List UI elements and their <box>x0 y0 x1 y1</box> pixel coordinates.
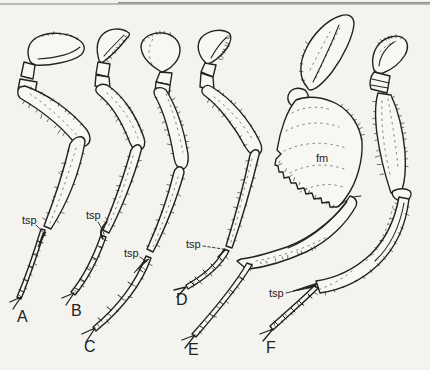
hair-tick <box>245 205 247 206</box>
leg-a-trochanter <box>21 62 35 79</box>
hair-tick <box>61 212 64 213</box>
hair-tick <box>164 32 165 34</box>
hair-tick <box>299 71 303 72</box>
leg-c-coxa <box>141 33 180 72</box>
hair-tick <box>170 33 171 35</box>
hair-tick <box>302 56 304 57</box>
leg-e-tibia-blade <box>237 196 357 269</box>
hair-tick <box>351 114 353 115</box>
tsp-label-a: tsp <box>22 214 37 226</box>
hair-tick <box>401 127 404 128</box>
hair-tick <box>119 212 122 213</box>
hair-tick <box>306 42 308 43</box>
panel-label-b: B <box>71 302 82 319</box>
leg-b-tibia <box>103 145 141 233</box>
panel-label-d: D <box>176 291 188 308</box>
hair-tick <box>29 105 30 108</box>
hair-tick <box>106 104 108 105</box>
leg-d-tibia <box>226 150 259 248</box>
hair-tick <box>208 99 209 103</box>
hair-tick <box>393 209 396 211</box>
hair-tick <box>55 126 56 128</box>
hair-tick <box>359 128 362 130</box>
hair-tick <box>162 121 165 123</box>
panel-label-e: E <box>188 341 199 358</box>
panel-label-f: F <box>266 339 276 356</box>
hair-tick <box>226 257 228 260</box>
hair-tick <box>172 98 175 100</box>
hair-tick <box>57 220 59 222</box>
hair-tick <box>301 80 304 81</box>
hair-tick <box>58 130 61 134</box>
hair-tick <box>157 245 160 246</box>
leg-c-tarsus <box>93 256 151 331</box>
tsp-label-f: tsp <box>269 287 284 299</box>
hair-tick <box>48 34 49 36</box>
hair-tick <box>81 281 84 282</box>
panel-label-c: C <box>84 338 96 355</box>
hair-tick <box>375 156 379 157</box>
hair-tick <box>131 181 133 182</box>
hair-tick <box>41 114 42 118</box>
panel-label-a: A <box>17 308 28 325</box>
leg-a: tsp A <box>10 32 90 325</box>
hair-tick <box>395 203 397 204</box>
hair-tick <box>116 118 118 122</box>
hair-tick <box>36 110 37 112</box>
hair-tick <box>357 123 360 125</box>
hair-tick <box>171 212 174 213</box>
tsp-leader-d <box>203 246 223 249</box>
leg-b-tarsus <box>71 235 106 295</box>
hair-tick <box>178 112 180 113</box>
hair-tick <box>223 49 226 50</box>
hair-tick <box>31 87 32 89</box>
hair-tick <box>221 55 224 58</box>
leg-d-coxa <box>198 30 231 64</box>
hair-tick <box>300 64 302 65</box>
leg-f-femur <box>376 93 406 193</box>
leg-b-femur <box>96 84 145 150</box>
hair-tick <box>346 110 348 111</box>
leg-a-coxa <box>28 33 84 65</box>
figure-panel: tsp A tsp B <box>0 0 430 370</box>
hair-tick <box>163 232 166 234</box>
hair-tick <box>63 133 64 135</box>
leg-c-femur <box>154 88 188 170</box>
leg-f-tibia <box>316 197 409 293</box>
leg-f-coxa <box>373 36 408 73</box>
leg-c-tibia <box>147 167 184 252</box>
hair-tick <box>249 270 250 271</box>
hair-tick <box>375 140 377 141</box>
tsp-label-d: tsp <box>186 238 201 250</box>
hair-tick <box>185 135 188 136</box>
hair-tick <box>314 293 318 294</box>
tsp-leader-f <box>286 289 303 293</box>
hair-tick <box>219 59 223 60</box>
hair-tick <box>66 201 68 202</box>
hair-tick <box>167 222 169 224</box>
hair-tick <box>341 105 342 107</box>
hair-tick <box>123 204 126 205</box>
hair-tick <box>403 139 406 140</box>
leg-a-tibia <box>44 137 85 229</box>
hair-tick <box>47 120 48 122</box>
fm-label: fm <box>316 152 328 164</box>
leg-e-tarsus <box>192 263 252 337</box>
insect-legs-illustration: tsp A tsp B <box>0 0 430 370</box>
hair-tick <box>100 98 102 100</box>
hair-tick <box>355 120 357 121</box>
tsp-label-c: tsp <box>124 247 139 259</box>
tsp-label-b: tsp <box>86 209 101 221</box>
leg-d-femur <box>202 86 262 156</box>
hair-tick <box>377 150 379 151</box>
hair-tick <box>304 50 305 51</box>
hair-tick <box>23 101 25 104</box>
